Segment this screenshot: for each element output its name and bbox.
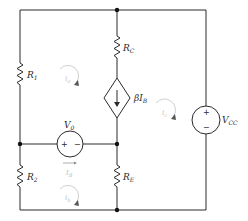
dependent-current-source: βIB [104, 78, 148, 118]
voltage-source-vo: + − V0 [57, 120, 83, 157]
svg-text:−: − [74, 140, 81, 149]
resistor-r2: R2 [17, 165, 38, 187]
svg-text:+: + [203, 108, 210, 117]
arrow-icon [74, 80, 79, 86]
mesh-current-b: ib [60, 185, 79, 206]
arrow-icon [74, 200, 79, 206]
node-center-mid [115, 142, 119, 146]
arrow-right-icon [74, 162, 77, 165]
svg-text:ia: ia [65, 75, 70, 84]
arrow-icon [171, 114, 176, 120]
circuit-diagram: R1 R2 RC RE βIB + − V0 IB + − VCC [0, 0, 248, 221]
svg-text:+: + [61, 140, 68, 149]
node-bottom [115, 208, 119, 212]
svg-text:IB: IB [65, 169, 73, 178]
resistor-re: RE [114, 165, 135, 187]
current-ib: IB [63, 162, 77, 178]
voltage-source-vcc: + − VCC [192, 106, 238, 134]
node-top [115, 8, 119, 12]
svg-text:V0: V0 [64, 120, 75, 131]
wires [20, 10, 206, 210]
svg-text:R1: R1 [26, 70, 38, 81]
svg-text:βIB: βIB [133, 93, 148, 104]
node-left-mid [18, 142, 22, 146]
svg-text:−: − [203, 123, 210, 132]
svg-text:VCC: VCC [222, 115, 238, 126]
resistor-rc: RC [114, 36, 135, 58]
arrow-down-icon [114, 102, 120, 107]
resistor-r1: R1 [17, 63, 38, 85]
mesh-current-a: ia [60, 65, 79, 86]
svg-text:RC: RC [122, 43, 135, 54]
svg-text:R2: R2 [26, 172, 38, 183]
svg-text:ic: ic [162, 109, 167, 118]
mesh-current-c: ic [156, 99, 176, 120]
svg-text:RE: RE [122, 172, 135, 183]
svg-text:ib: ib [65, 194, 70, 203]
